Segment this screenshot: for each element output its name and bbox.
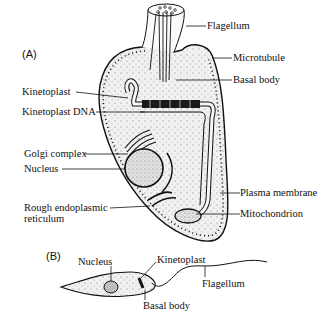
label-b-nucleus: Nucleus <box>78 256 112 268</box>
cell-diagram <box>0 0 332 320</box>
label-nucleus: Nucleus <box>24 163 58 175</box>
label-microtubule: Microtubule <box>233 52 285 64</box>
label-golgi-complex: Golgi complex <box>24 148 87 160</box>
label-basal-body: Basal body <box>233 74 280 86</box>
label-flagellum: Flagellum <box>207 20 250 32</box>
label-rer-line2: reticulum <box>24 213 64 225</box>
label-b-kinetoplast: Kinetoplast <box>157 254 205 266</box>
label-b-flagellum: Flagellum <box>202 278 245 290</box>
panel-b-label: (B) <box>46 250 61 262</box>
label-mitochondrion: Mitochondrion <box>240 208 303 220</box>
label-kinetoplast-dna: Kinetoplast DNA <box>22 106 96 118</box>
trypanosome-cell-a <box>99 4 228 241</box>
panel-a-label: (A) <box>22 48 37 60</box>
label-plasma-membrane: Plasma membrane <box>240 187 317 199</box>
label-kinetoplast: Kinetoplast <box>22 86 70 98</box>
label-b-basal-body: Basal body <box>143 300 190 312</box>
